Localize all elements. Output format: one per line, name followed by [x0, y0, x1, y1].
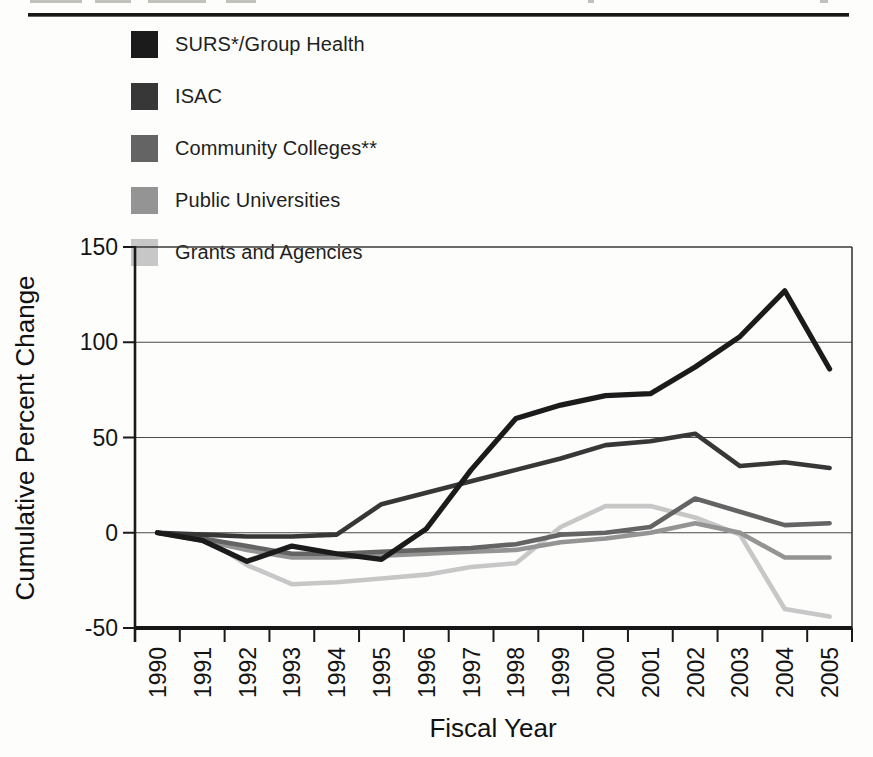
- x-tick-label: 1998: [503, 647, 529, 698]
- x-tick-label: 1992: [235, 647, 261, 698]
- line-chart-plot: 150100500-501990199119921993199419951996…: [0, 0, 873, 757]
- x-tick-label: 1996: [414, 647, 440, 698]
- series-line-public-universities: [157, 523, 829, 557]
- y-tick-label: -50: [85, 615, 118, 641]
- x-axis-title: Fiscal Year: [429, 713, 556, 744]
- x-tick-label: 2002: [683, 647, 709, 698]
- x-tick-label: 1999: [548, 647, 574, 698]
- x-tick-label: 2000: [593, 647, 619, 698]
- figure-page: SURS*/Group Health ISAC Community Colleg…: [0, 0, 873, 757]
- y-tick-label: 100: [80, 329, 118, 355]
- series-line-surs-group-health: [157, 291, 829, 562]
- x-tick-label: 1995: [369, 647, 395, 698]
- x-tick-label: 2003: [727, 647, 753, 698]
- y-tick-label: 50: [92, 425, 118, 451]
- x-tick-label: 1993: [279, 647, 305, 698]
- x-tick-label: 2004: [772, 647, 798, 698]
- y-tick-label: 150: [80, 234, 118, 260]
- series-line-grants-and-agencies: [157, 506, 829, 616]
- x-tick-label: 2001: [638, 647, 664, 698]
- x-tick-label: 2005: [817, 647, 843, 698]
- series-line-community-colleges: [157, 498, 829, 553]
- y-tick-label: 0: [105, 520, 118, 546]
- x-tick-label: 1990: [145, 647, 171, 698]
- x-tick-label: 1991: [190, 647, 216, 698]
- x-tick-label: 1994: [324, 647, 350, 698]
- x-tick-label: 1997: [459, 647, 485, 698]
- series-line-isac: [157, 434, 829, 537]
- y-axis-title: Cumulative Percent Change: [10, 275, 41, 600]
